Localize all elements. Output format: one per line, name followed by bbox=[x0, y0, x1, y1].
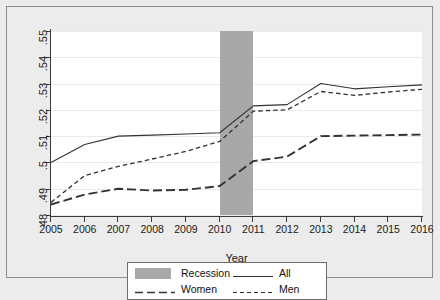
legend-key-women bbox=[132, 284, 176, 295]
x-axis-tick-label: 2010 bbox=[208, 223, 231, 235]
recession-swatch-icon bbox=[135, 268, 171, 279]
y-axis-tick-label: .49 bbox=[37, 188, 49, 203]
series-line-women bbox=[51, 135, 422, 205]
y-axis-tick-label: .55 bbox=[37, 30, 49, 45]
legend-item-men: Men bbox=[230, 281, 322, 297]
x-axis-tick bbox=[185, 217, 186, 222]
x-axis-line bbox=[50, 216, 423, 217]
y-axis-tick-label: .5 bbox=[37, 161, 49, 170]
chart-frame: .48.49.5.51.52.53.54.55 2005200620072008… bbox=[6, 6, 433, 278]
x-axis-tick-label: 2009 bbox=[174, 223, 197, 235]
x-axis-tick bbox=[387, 217, 388, 222]
x-axis-tick bbox=[151, 217, 152, 222]
solid-line-icon bbox=[230, 271, 274, 282]
x-axis-tick-label: 2007 bbox=[107, 223, 130, 235]
x-axis-tick bbox=[421, 217, 422, 222]
series-layer bbox=[51, 31, 422, 215]
x-axis-tick-label: 2008 bbox=[140, 223, 163, 235]
legend-label-all: All bbox=[279, 267, 291, 279]
x-axis-tick bbox=[252, 217, 253, 222]
x-axis-tick-label: 2011 bbox=[242, 223, 265, 235]
legend-label-recession: Recession bbox=[181, 267, 230, 279]
series-line-all bbox=[51, 84, 422, 163]
legend-key-men bbox=[230, 284, 274, 295]
x-axis-tick-label: 2013 bbox=[309, 223, 332, 235]
x-axis-tick bbox=[320, 217, 321, 222]
y-axis-tick-label: .54 bbox=[37, 56, 49, 71]
y-axis-tick-label: .51 bbox=[37, 135, 49, 150]
legend-item-recession: Recession bbox=[132, 265, 230, 281]
x-axis-tick bbox=[50, 217, 51, 222]
x-axis-tick bbox=[117, 217, 118, 222]
series-line-men bbox=[51, 89, 422, 202]
y-axis-line bbox=[50, 29, 51, 217]
x-axis-tick bbox=[84, 217, 85, 222]
plot-area bbox=[51, 31, 422, 215]
legend-item-women: Women bbox=[132, 281, 230, 297]
long-dash-line-icon bbox=[132, 287, 176, 298]
x-axis-tick-label: 2016 bbox=[410, 223, 433, 235]
x-axis-tick-label: 2015 bbox=[377, 223, 400, 235]
x-axis-tick bbox=[354, 217, 355, 222]
x-axis-tick-label: 2005 bbox=[39, 223, 62, 235]
x-axis-tick-label: 2014 bbox=[343, 223, 366, 235]
x-axis-tick bbox=[219, 217, 220, 222]
x-axis-tick-label: 2012 bbox=[275, 223, 298, 235]
legend-label-women: Women bbox=[181, 283, 217, 295]
legend-key-recession bbox=[132, 268, 176, 279]
short-dash-line-icon bbox=[230, 287, 274, 298]
y-axis-tick-label: .52 bbox=[37, 109, 49, 124]
x-axis-tick-label: 2006 bbox=[73, 223, 96, 235]
y-axis-tick-label: .53 bbox=[37, 83, 49, 98]
x-axis-tick bbox=[286, 217, 287, 222]
legend-label-men: Men bbox=[279, 283, 299, 295]
legend-item-all: All bbox=[230, 265, 322, 281]
chart-screenshot: .48.49.5.51.52.53.54.55 2005200620072008… bbox=[0, 0, 440, 300]
legend-key-all bbox=[230, 268, 274, 279]
chart-legend: Recession All Women bbox=[127, 262, 327, 300]
